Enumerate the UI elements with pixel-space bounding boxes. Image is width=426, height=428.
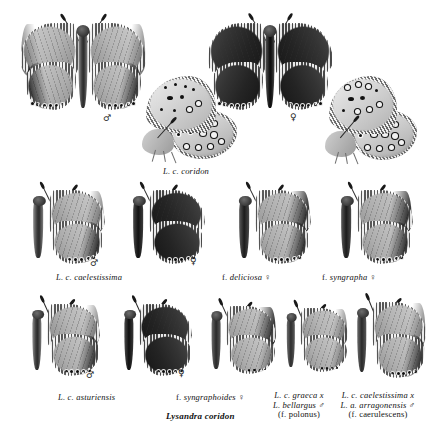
specimen-polonus-hybrid: [268, 306, 344, 374]
thorax-abdomen: [265, 28, 274, 107]
hindwing-left: [26, 63, 75, 109]
specimen-caerulescens-hybrid: [336, 300, 422, 380]
specimen-deliciosa-female: [218, 188, 306, 266]
caption-polonus-hybrid: L. c. graeca x L. bellargus ♂ (f. polonu…: [262, 391, 336, 420]
specimen-coridon-female-dorsal: [205, 16, 335, 120]
head: [341, 196, 353, 206]
head: [357, 308, 369, 318]
thorax-abdomen: [134, 199, 144, 258]
sex-symbol-male-row2: ♂: [90, 258, 98, 268]
hindwing-right: [91, 63, 140, 109]
specimen-caelestissima-male: [12, 188, 100, 266]
hindwing-right: [376, 335, 424, 377]
caption-deliciosa: f. deliciosa ♀: [222, 272, 271, 282]
hindwing-right: [278, 63, 327, 109]
plate-title: Lysandra coridon: [166, 411, 235, 421]
thorax-abdomen: [342, 199, 352, 258]
head: [124, 310, 136, 320]
sex-symbol-male-row1: ♂: [103, 113, 111, 123]
caption-caelestissima: L. c. caelestissima: [56, 272, 122, 282]
hindwing-right: [360, 222, 409, 263]
thorax-abdomen: [357, 311, 366, 372]
hindwing-right: [52, 222, 101, 263]
head: [211, 311, 222, 320]
head: [286, 313, 297, 322]
body-underside: [142, 129, 174, 155]
thorax-abdomen: [125, 313, 134, 371]
forewing-underside: [329, 76, 397, 134]
hindwing-right: [258, 222, 307, 263]
caption-asturiensis: L. c. asturiensis: [58, 392, 115, 402]
hindwing-right: [229, 336, 274, 373]
caption-caerulescens-hybrid: L. c. caelestissima x L. a. arragonensis…: [336, 391, 420, 420]
caption-polonus-line3: (f. polonus): [262, 410, 336, 420]
specimen-asturiensis-male: [12, 302, 96, 378]
head: [33, 196, 45, 206]
caption-caerulescens-line3: (f. caerulescens): [336, 410, 420, 420]
specimen-syngrapha-female: [320, 188, 408, 266]
caption-syngrapha: f. syngrapha ♀: [322, 272, 376, 282]
caption-syngraphoides: f. syngraphoides ♀: [176, 392, 245, 402]
thorax-abdomen: [212, 314, 221, 369]
specimen-asturiensis-female: [104, 302, 188, 378]
sex-symbol-female-row2a: ♀: [190, 256, 197, 266]
head: [239, 196, 251, 206]
thorax-abdomen: [78, 28, 87, 107]
specimen-caelestissima-female: [112, 188, 200, 266]
thorax-abdomen: [287, 316, 295, 368]
specimen-coridon-female-ventral: [325, 76, 417, 164]
specimen-syngraphoides-female: [192, 304, 272, 376]
sex-symbol-male-row3: ♂: [86, 370, 94, 380]
thorax-abdomen: [33, 313, 42, 371]
head: [133, 196, 145, 206]
hindwing-left: [213, 63, 262, 109]
thorax-abdomen: [240, 199, 250, 258]
sex-symbol-female-row1: ♀: [290, 112, 297, 122]
sex-symbol-female-row3: ♀: [178, 368, 185, 378]
thorax-abdomen: [34, 199, 44, 258]
caption-row1: L. c. coridon: [163, 166, 209, 176]
specimen-coridon-male-dorsal: [18, 16, 148, 120]
head: [32, 310, 44, 320]
